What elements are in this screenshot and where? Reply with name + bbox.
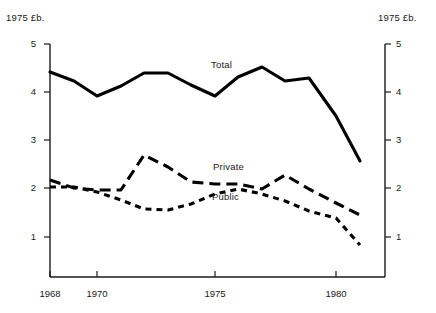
line-chart-figure: 1975 £b. 1975 £b. 5 4 3 2 1 5 4 3 2 1 19… — [0, 0, 436, 313]
x-axis-ticks — [50, 271, 336, 277]
series-line-total — [50, 67, 360, 161]
series-line-private — [50, 155, 360, 215]
series-line-public — [50, 187, 360, 245]
plot-canvas — [0, 0, 436, 313]
right-axis-ticks — [385, 44, 391, 237]
